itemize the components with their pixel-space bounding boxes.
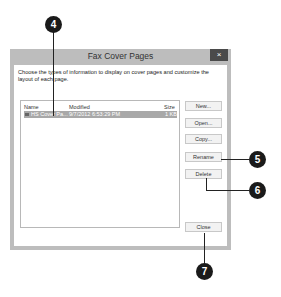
callout-6-line-h: [206, 190, 249, 191]
column-header-name[interactable]: Name: [24, 104, 39, 110]
item-size: 1 KB: [165, 111, 177, 118]
new-button[interactable]: New...: [185, 101, 222, 111]
callout-4-line: [53, 32, 54, 116]
callout-7-line: [204, 233, 205, 266]
callout-5-line: [221, 159, 249, 160]
title-bar: Fax Cover Pages ×: [10, 49, 231, 65]
close-button[interactable]: Close: [185, 222, 222, 232]
copy-button[interactable]: Copy...: [185, 134, 222, 144]
close-icon[interactable]: ×: [210, 49, 228, 61]
column-header-modified[interactable]: Modified: [69, 104, 90, 110]
rename-button[interactable]: Rename: [185, 152, 222, 162]
dialog-body: Choose the types of information to displ…: [14, 65, 227, 246]
delete-button[interactable]: Delete: [185, 169, 222, 179]
description-text: Choose the types of information to displ…: [18, 69, 223, 83]
cover-pages-list[interactable]: Name Modified Size HS Cover Pa... 9/7/20…: [20, 100, 180, 228]
list-item[interactable]: HS Cover Pa... 9/7/2012 6:53:29 PM 1 KB: [24, 111, 177, 118]
dialog-title: Fax Cover Pages: [10, 51, 231, 61]
callout-6: 6: [249, 182, 266, 199]
fax-cover-pages-dialog: Fax Cover Pages × Choose the types of in…: [10, 49, 231, 250]
cover-page-file-icon: [25, 113, 29, 116]
item-modified: 9/7/2012 6:53:29 PM: [69, 111, 120, 118]
callout-7: 7: [196, 263, 213, 280]
open-button[interactable]: Open...: [185, 118, 222, 128]
item-name: HS Cover Pa...: [31, 111, 68, 118]
callout-5: 5: [249, 151, 266, 168]
column-header-size[interactable]: Size: [164, 104, 175, 110]
callout-4: 4: [45, 16, 62, 33]
